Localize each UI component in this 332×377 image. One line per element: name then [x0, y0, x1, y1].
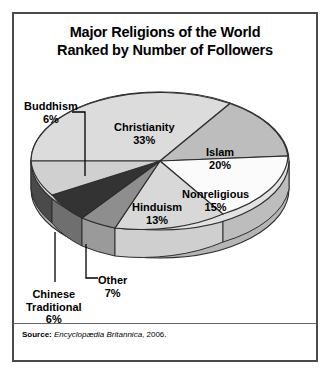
- slice-label-chinese-name-line1: Chinese: [26, 288, 82, 301]
- source-note: Source: Encyclopædia Britannica, 2006.: [22, 329, 167, 340]
- slice-label-islam: Islam 20%: [206, 146, 234, 171]
- slice-label-nonreligious-name: Nonreligious: [182, 188, 249, 201]
- slice-label-other-pct: 7%: [98, 287, 127, 300]
- source-work-title: Encyclopædia Britannica: [54, 330, 142, 339]
- slice-label-hinduism-name: Hinduism: [132, 201, 182, 214]
- slice-label-other: Other 7%: [98, 274, 127, 299]
- slice-label-chinese-name-line2: Traditional: [26, 301, 82, 314]
- figure-panel: Major Religions of the World Ranked by N…: [12, 12, 318, 362]
- title-line-1: Major Religions of the World: [14, 23, 316, 41]
- slice-label-hinduism: Hinduism 13%: [132, 201, 182, 226]
- source-divider: [14, 323, 316, 324]
- slice-label-other-name: Other: [98, 274, 127, 287]
- slice-label-islam-name: Islam: [206, 146, 234, 159]
- slice-label-chinese-traditional: Chinese Traditional 6%: [26, 288, 82, 326]
- slice-label-nonreligious: Nonreligious 15%: [182, 188, 249, 213]
- slice-label-nonreligious-pct: 15%: [182, 201, 249, 214]
- title-line-2: Ranked by Number of Followers: [14, 41, 316, 59]
- slice-label-islam-pct: 20%: [206, 159, 234, 172]
- slice-label-christianity-pct: 33%: [114, 134, 175, 147]
- page-title: Major Religions of the World Ranked by N…: [14, 23, 316, 59]
- source-year: , 2006.: [142, 330, 166, 339]
- slice-label-hinduism-pct: 13%: [132, 214, 182, 227]
- pie-chart: Buddhism 6% Christianity 33% Islam 20% N…: [14, 66, 316, 318]
- slice-label-buddhism: Buddhism 6%: [24, 100, 78, 125]
- slice-label-buddhism-name: Buddhism: [24, 100, 78, 113]
- source-label: Source:: [22, 330, 52, 339]
- slice-label-christianity: Christianity 33%: [114, 121, 175, 146]
- slice-label-christianity-name: Christianity: [114, 121, 175, 134]
- slice-label-buddhism-pct: 6%: [24, 113, 78, 126]
